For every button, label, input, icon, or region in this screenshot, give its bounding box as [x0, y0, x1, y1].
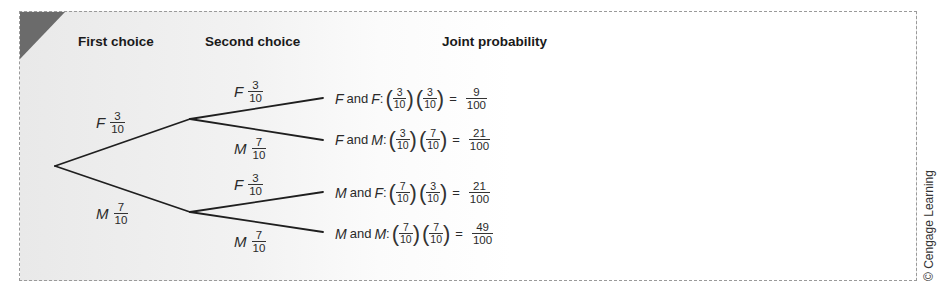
- branch-variable: M: [234, 140, 247, 157]
- denominator: 10: [393, 98, 407, 110]
- open-paren: (: [416, 88, 423, 110]
- open-paren: (: [389, 182, 396, 204]
- denominator: 100: [469, 192, 490, 205]
- numerator: 21: [472, 180, 487, 192]
- outcome-second: M: [371, 132, 383, 148]
- and-text: and: [350, 226, 372, 241]
- denominator: 10: [248, 184, 263, 197]
- numerator: 9: [472, 86, 480, 98]
- outcome-second: M: [374, 226, 386, 242]
- colon: :: [383, 132, 387, 147]
- equals-sign: =: [452, 132, 460, 147]
- denominator: 10: [399, 233, 413, 245]
- denominator: 10: [248, 91, 263, 104]
- outcome-first: F: [335, 91, 344, 107]
- branch-variable: M: [96, 205, 109, 222]
- fraction: 7 10: [252, 229, 267, 254]
- numerator: 3: [251, 172, 259, 184]
- branch-label-second-F-upper: F 3 10: [234, 79, 263, 104]
- branch-label-first-M: M 7 10: [96, 201, 128, 226]
- fraction: 710: [429, 222, 443, 245]
- denominator: 10: [396, 139, 410, 151]
- numerator: 3: [399, 128, 407, 139]
- open-paren: (: [419, 182, 426, 204]
- copyright-notice: © Cengage Learning: [922, 170, 936, 281]
- numerator: 7: [429, 128, 437, 139]
- close-paren: ): [406, 88, 413, 110]
- fraction: 710: [396, 181, 410, 204]
- denominator: 10: [110, 122, 125, 135]
- branch-variable: F: [234, 176, 243, 193]
- outcome-first: M: [335, 226, 347, 242]
- fraction: 3 10: [248, 172, 263, 197]
- denominator: 10: [252, 241, 267, 254]
- fraction: 310: [396, 128, 410, 151]
- and-text: and: [350, 185, 372, 200]
- joint-probability-row-F-M: F and M: (310) (710) = 21100: [335, 127, 490, 152]
- numerator: 3: [251, 79, 259, 91]
- fraction: 310: [426, 181, 440, 204]
- numerator: 7: [432, 222, 440, 233]
- equals-sign: =: [455, 226, 463, 241]
- numerator: 49: [475, 221, 490, 233]
- numerator: 7: [402, 222, 410, 233]
- numerator: 3: [113, 110, 121, 122]
- branch-variable: F: [234, 83, 243, 100]
- denominator: 10: [252, 148, 267, 161]
- close-paren: ): [413, 223, 420, 245]
- close-paren: ): [437, 88, 444, 110]
- open-paren: (: [392, 223, 399, 245]
- numerator: 7: [117, 201, 125, 213]
- close-paren: ): [410, 129, 417, 151]
- open-paren: (: [385, 88, 392, 110]
- colon: :: [383, 185, 387, 200]
- denominator: 10: [426, 192, 440, 204]
- colon: :: [386, 226, 390, 241]
- denominator: 10: [396, 192, 410, 204]
- joint-probability-row-M-M: M and M: (710) (710) = 49100: [335, 221, 493, 246]
- open-paren: (: [389, 129, 396, 151]
- numerator: 3: [429, 181, 437, 192]
- denominator: 100: [466, 98, 487, 111]
- fraction: 310: [423, 87, 437, 110]
- joint-probability-row-F-F: F and F: (310) (310) = 9100: [335, 86, 487, 111]
- numerator: 3: [396, 87, 404, 98]
- open-paren: (: [422, 223, 429, 245]
- denominator: 10: [426, 139, 440, 151]
- denominator: 100: [472, 233, 493, 246]
- joint-probability-result: 9100: [466, 86, 487, 111]
- joint-probability-row-M-F: M and F: (710) (310) = 21100: [335, 180, 490, 205]
- outcome-first: M: [335, 185, 347, 201]
- branch-label-second-M-lower: M 7 10: [234, 229, 266, 254]
- close-paren: ): [440, 182, 447, 204]
- branch-label-second-M-upper: M 7 10: [234, 136, 266, 161]
- denominator: 10: [429, 233, 443, 245]
- denominator: 10: [114, 213, 129, 226]
- branch-label-first-F: F 3 10: [96, 110, 125, 135]
- fraction: 7 10: [252, 136, 267, 161]
- fraction: 3 10: [248, 79, 263, 104]
- outcome-second: F: [371, 91, 380, 107]
- fraction: 7 10: [114, 201, 129, 226]
- fraction: 710: [399, 222, 413, 245]
- fraction: 3 10: [110, 110, 125, 135]
- and-text: and: [347, 132, 369, 147]
- numerator: 7: [255, 229, 263, 241]
- and-text: and: [347, 91, 369, 106]
- denominator: 100: [469, 139, 490, 152]
- close-paren: ): [443, 223, 450, 245]
- fraction: 310: [393, 87, 407, 110]
- numerator: 7: [255, 136, 263, 148]
- close-paren: ): [410, 182, 417, 204]
- numerator: 7: [399, 181, 407, 192]
- outcome-second: F: [374, 185, 383, 201]
- branch-variable: M: [234, 233, 247, 250]
- equals-sign: =: [452, 185, 460, 200]
- fraction: 710: [426, 128, 440, 151]
- equals-sign: =: [449, 91, 457, 106]
- numerator: 21: [472, 127, 487, 139]
- numerator: 3: [426, 87, 434, 98]
- denominator: 10: [423, 98, 437, 110]
- colon: :: [380, 91, 384, 106]
- joint-probability-result: 49100: [472, 221, 493, 246]
